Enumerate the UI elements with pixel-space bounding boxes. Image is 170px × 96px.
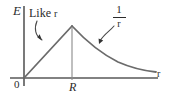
curve-inverse-decay (72, 26, 156, 72)
curve-linear-rise (24, 26, 72, 78)
annotation-like-r: Like r (29, 7, 57, 19)
leader-arrowhead-like-r (37, 34, 42, 40)
x-tick-label-R: R (69, 81, 76, 93)
annotation-one-over-r: 1 r (110, 4, 128, 29)
fraction-denominator: r (110, 19, 128, 30)
origin-label: 0 (14, 79, 20, 90)
y-axis-label: E (13, 4, 21, 17)
x-axis-label: r (157, 69, 160, 79)
annotation-like-word: Like (29, 6, 51, 20)
plot-canvas (0, 0, 170, 96)
annotation-like-symbol: r (54, 8, 57, 19)
physics-field-plot-figure: E 0 R r Like r 1 r (0, 0, 170, 96)
fraction-numerator: 1 (110, 4, 128, 16)
